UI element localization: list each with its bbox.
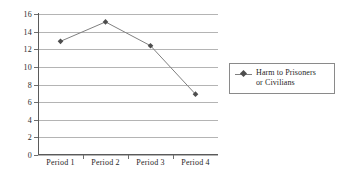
series-harm-to-prisoners-or-civilians: [38, 14, 218, 155]
x-tick-label: Period 2: [91, 158, 120, 167]
data-point-marker: [58, 38, 64, 44]
y-tick-label: 2: [28, 133, 32, 142]
y-tick-label: 0: [28, 151, 32, 160]
data-point-marker: [103, 19, 109, 25]
x-tick-mark: [173, 155, 174, 159]
y-tick-label: 12: [24, 45, 32, 54]
plot-area: 0246810121416 Period 1Period 2Period 3Pe…: [38, 14, 218, 155]
y-tick-label: 10: [24, 62, 32, 71]
x-tick-mark: [83, 155, 84, 159]
line-chart: 0246810121416 Period 1Period 2Period 3Pe…: [0, 0, 343, 178]
legend-label: Harm to Prisoners or Civilians: [256, 68, 316, 88]
y-tick-mark: [34, 155, 38, 156]
legend-marker-icon: [235, 70, 252, 80]
x-tick-mark: [128, 155, 129, 159]
x-tick-label: Period 4: [181, 158, 210, 167]
series-line: [61, 22, 196, 94]
legend-label-line2: or Civilians: [256, 78, 295, 87]
x-tick-label: Period 1: [46, 158, 75, 167]
legend-label-line1: Harm to Prisoners: [256, 68, 316, 77]
y-tick-label: 16: [24, 10, 32, 19]
legend: Harm to Prisoners or Civilians: [229, 63, 335, 94]
y-tick-label: 8: [28, 80, 32, 89]
y-tick-label: 4: [28, 115, 32, 124]
y-tick-label: 14: [24, 27, 32, 36]
x-tick-label: Period 3: [136, 158, 165, 167]
y-tick-label: 6: [28, 98, 32, 107]
